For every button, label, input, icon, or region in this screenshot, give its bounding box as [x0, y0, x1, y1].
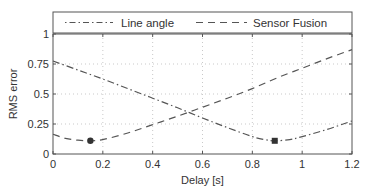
- rms-error-chart: 00.20.40.60.811.2 00.250.50.751 Delay [s…: [0, 0, 372, 194]
- x-tick-label: 0.8: [245, 158, 260, 170]
- x-tick-label: 0.6: [195, 158, 210, 170]
- x-tick-labels: 00.20.40.60.811.2: [50, 158, 360, 170]
- x-tick-label: 0.4: [145, 158, 160, 170]
- x-axis-label: Delay [s]: [181, 174, 224, 186]
- y-tick-label: 1: [43, 28, 49, 40]
- x-tick-label: 1.2: [344, 158, 359, 170]
- x-tick-label: 0: [50, 158, 56, 170]
- min-marker-line-angle: [272, 138, 278, 144]
- series-line-sensor-fusion: [53, 50, 352, 141]
- min-marker-sensor-fusion: [87, 138, 93, 144]
- y-tick-label: 0: [43, 148, 49, 160]
- y-axis-label: RMS error: [7, 68, 19, 119]
- legend: Line angle Sensor Fusion: [53, 12, 352, 33]
- x-tick-label: 0.2: [95, 158, 110, 170]
- y-tick-label: 0.5: [34, 88, 49, 100]
- y-tick-label: 0.25: [28, 118, 49, 130]
- series-line-line-angle: [53, 61, 352, 141]
- y-tick-labels: 00.250.50.751: [28, 28, 49, 160]
- grid-lines: [53, 34, 352, 154]
- y-tick-label: 0.75: [28, 58, 49, 70]
- legend-label-sensor-fusion: Sensor Fusion: [253, 17, 327, 29]
- legend-label-line-angle: Line angle: [121, 17, 174, 29]
- x-tick-label: 1: [299, 158, 305, 170]
